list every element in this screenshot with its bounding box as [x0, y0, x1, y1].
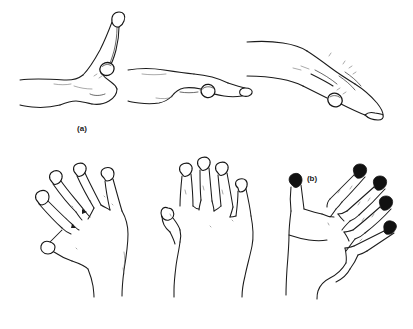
hand-drawing-e: [148, 156, 266, 298]
panel-d: (d): [20, 160, 148, 298]
hand-drawing-c: [245, 28, 400, 124]
panel-c: (c): [245, 28, 400, 124]
figure-plate: (a) (b): [0, 0, 413, 329]
hand-drawing-b: [126, 56, 254, 124]
panel-e: (e): [148, 156, 266, 298]
hand-drawing-d: [20, 160, 148, 298]
panel-label-a: (a): [62, 124, 102, 134]
hand-drawing-f: [272, 163, 404, 299]
panel-b: (b): [126, 56, 254, 124]
panel-f: (f): [272, 163, 404, 299]
